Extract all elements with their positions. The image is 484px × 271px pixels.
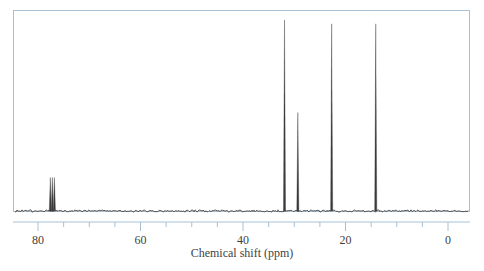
axis-tick-label: 80 (32, 234, 44, 246)
plot-frame (13, 10, 470, 212)
axis-title: Chemical shift (ppm) (0, 247, 484, 259)
axis-ticks (13, 222, 470, 231)
nmr-spectrum-figure: 806040200 Chemical shift (ppm) (0, 0, 484, 271)
axis-tick-label: 40 (237, 234, 249, 246)
axis-tick-label: 60 (135, 234, 147, 246)
axis-tick-label: 0 (445, 234, 451, 246)
axis-tick-label: 20 (340, 234, 352, 246)
